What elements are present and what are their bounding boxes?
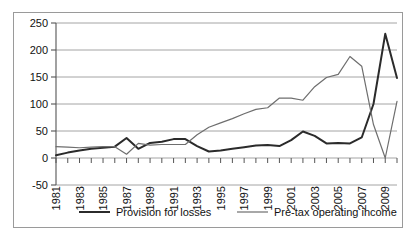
y-tick-label: 150 <box>30 71 48 83</box>
x-tick-label: 1995 <box>215 186 227 210</box>
y-tick-label: 0 <box>42 152 48 164</box>
y-tick-label: 50 <box>36 125 48 137</box>
y-axis-ticks: -50050100150200250 <box>30 17 56 191</box>
x-axis-ticks <box>56 158 397 163</box>
y-tick-label: 250 <box>30 17 48 29</box>
x-tick-label: 1999 <box>262 186 274 210</box>
y-tick-label: 200 <box>30 44 48 56</box>
line-chart: -500501001502002501981198319851987198919… <box>0 0 416 240</box>
x-tick-label: 1983 <box>74 186 86 210</box>
gridlines <box>56 23 397 185</box>
x-tick-label: 1997 <box>238 186 250 210</box>
legend-label-1: Provision for losses <box>116 206 212 218</box>
x-tick-label: 1981 <box>50 186 62 210</box>
x-tick-label: 1985 <box>97 186 109 210</box>
chart-figure: -500501001502002501981198319851987198919… <box>0 0 416 240</box>
legend-label-2: Pre-tax operating income <box>274 206 397 218</box>
y-tick-label: -50 <box>32 179 48 191</box>
y-tick-label: 100 <box>30 98 48 110</box>
series-line-1 <box>56 34 397 156</box>
